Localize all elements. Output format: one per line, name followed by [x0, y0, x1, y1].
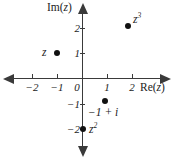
x-axis-tick-label: 2 [123, 82, 141, 93]
point-z-dot [54, 50, 60, 56]
y-axis-tick-mark [80, 28, 85, 29]
point-minus-one-plus-i-label: −1 + i [88, 107, 118, 119]
point-z-squared-dot [80, 126, 86, 132]
y-axis-tick-mark [80, 104, 85, 105]
real-axis-title-suffix: ) [161, 81, 165, 93]
point-z-cubed-label: z3 [133, 14, 141, 26]
x-axis-tick-label: 1 [98, 82, 116, 93]
left-arrowhead-icon [3, 74, 14, 84]
x-axis-tick-mark [132, 74, 133, 79]
y-axis-tick-label: 2 [62, 23, 80, 34]
x-axis-tick-mark [57, 74, 58, 79]
real-axis-line [14, 78, 164, 79]
imaginary-axis-title-prefix: Im( [47, 1, 64, 13]
point-z-cubed-dot [125, 23, 131, 29]
y-axis-tick-label: −1 [62, 99, 80, 110]
y-axis-tick-label: 1 [62, 48, 80, 59]
real-axis-title: Re(z) [140, 82, 165, 94]
point-z-cubed-label-exponent: 3 [137, 11, 141, 20]
x-axis-tick-label: −2 [23, 82, 41, 93]
point-z-squared-label-exponent: 2 [93, 121, 97, 130]
real-axis-title-prefix: Re( [140, 81, 157, 93]
x-axis-tick-label: 0 [68, 82, 86, 93]
y-axis-tick-label: −2 [62, 124, 80, 135]
up-arrowhead-icon [78, 3, 88, 14]
imaginary-axis-title: Im(z) [47, 2, 72, 14]
y-axis-tick-mark [80, 53, 85, 54]
x-axis-tick-mark [107, 74, 108, 79]
x-axis-tick-mark [32, 74, 33, 79]
x-axis-tick-label: −1 [48, 82, 66, 93]
point-minus-one-plus-i-dot [102, 98, 108, 104]
point-z-squared-label: z2 [89, 124, 97, 136]
imaginary-axis-title-suffix: ) [68, 1, 72, 13]
complex-plane-plot: Re(z) Im(z) −2−101221−1−2 zz3−1 + iz2 [0, 0, 173, 159]
point-z-label: z [42, 47, 46, 59]
down-arrowhead-icon [78, 146, 88, 157]
